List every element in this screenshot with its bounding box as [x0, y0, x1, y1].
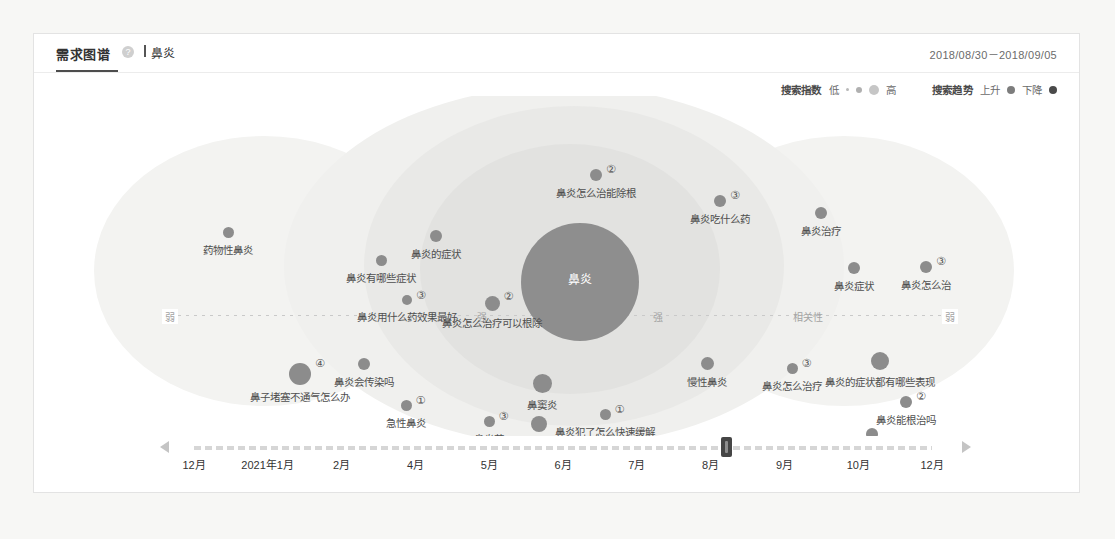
graph-node-rank: ① [416, 394, 426, 407]
timeline-tick: 7月 [628, 456, 645, 472]
triangle-left-icon[interactable] [160, 441, 169, 453]
timeline-tick: 2021年1月 [241, 456, 294, 472]
legend-trend-up-label: 上升 [980, 82, 1000, 97]
graph-node[interactable] [531, 416, 547, 432]
graph-node-label[interactable]: 鼻窦炎 [527, 397, 557, 412]
legend-index-title: 搜索指数 [781, 82, 822, 97]
graph-node-label[interactable]: 鼻炎吃什么药 [690, 211, 750, 226]
graph-node[interactable] [714, 195, 726, 207]
timeline-track[interactable] [194, 446, 932, 450]
graph-node-label[interactable]: 鼻炎的症状 [411, 246, 461, 261]
legend-dot-medium-icon [856, 87, 862, 93]
graph-node-rank: ② [916, 390, 926, 403]
keyword-label: 鼻炎 [151, 44, 175, 61]
graph-node-label[interactable]: 鼻炎怎么治疗 [762, 378, 822, 393]
graph-node-label[interactable]: 鼻炎有哪些症状 [346, 270, 416, 285]
graph-node-label[interactable]: 鼻炎怎么治 [901, 277, 951, 292]
graph-node-rank: ④ [315, 357, 325, 370]
timeline-tick: 2月 [333, 456, 350, 472]
graph-node-rank: ③ [499, 410, 509, 423]
graph-node[interactable] [600, 409, 611, 420]
graph-node[interactable] [815, 207, 827, 219]
timeline[interactable]: 12月2021年1月2月4月5月6月7月8月9月10月12月 [34, 436, 1081, 476]
graph-node[interactable] [402, 295, 412, 305]
graph-node[interactable] [787, 363, 798, 374]
graph-node-label[interactable]: 鼻炎怎么治疗可以根除 [442, 315, 542, 330]
timeline-tick: 12月 [183, 456, 206, 472]
graph-node-label[interactable]: 药物性鼻炎 [203, 242, 253, 257]
question-mark-icon[interactable]: ? [122, 46, 134, 58]
header-divider [34, 72, 1079, 73]
timeline-tick: 9月 [776, 456, 793, 472]
graph-node[interactable] [533, 374, 552, 393]
graph-node[interactable] [484, 416, 495, 427]
legend-trend-up-icon [1007, 86, 1015, 94]
graph-node[interactable] [485, 296, 500, 311]
keyword-divider [144, 45, 146, 57]
axis-label-strong-right: 强 [650, 309, 666, 324]
legend-dot-large-icon [869, 85, 879, 95]
legend-index-low: 低 [829, 82, 839, 97]
graph-node-label[interactable]: 鼻炎怎么治能除根 [556, 185, 636, 200]
legend-index-high: 高 [886, 82, 896, 97]
graph-node-label[interactable]: 鼻子堵塞不通气怎么办 [250, 389, 350, 404]
timeline-tick: 6月 [555, 456, 572, 472]
graph-node[interactable] [848, 262, 860, 274]
timeline-tick: 10月 [847, 456, 870, 472]
card-header: 需求图谱 ? 鼻炎 2018/08/30－2018/09/05 [34, 34, 1079, 74]
legend-trend-down-label: 下降 [1022, 82, 1042, 97]
tab-demand-graph[interactable]: 需求图谱 [56, 44, 110, 63]
timeline-tick: 12月 [921, 456, 944, 472]
center-node-label: 鼻炎 [521, 270, 639, 287]
graph-node-rank: ② [606, 163, 616, 176]
timeline-tick: 4月 [407, 456, 424, 472]
date-range-label: 2018/08/30－2018/09/05 [930, 46, 1057, 62]
graph-node[interactable] [590, 169, 602, 181]
graph-node-label[interactable]: 鼻炎治疗 [801, 223, 841, 238]
graph-node-label[interactable]: 鼻炎犯了怎么快速缓解 [555, 424, 655, 437]
triangle-right-icon[interactable] [962, 441, 971, 453]
graph-node[interactable] [223, 227, 234, 238]
timeline-tick: 8月 [702, 456, 719, 472]
axis-label-weak-left: 弱 [162, 309, 178, 324]
graph-node-label[interactable]: 慢性鼻炎 [687, 374, 727, 389]
graph-node[interactable] [701, 357, 714, 370]
graph-node-label[interactable]: 鼻炎能根治吗 [876, 412, 936, 427]
graph-node[interactable] [871, 352, 889, 370]
timeline-tick: 5月 [481, 456, 498, 472]
legend-trend-title: 搜索趋势 [932, 82, 973, 97]
graph-node-label[interactable]: 鼻炎的症状都有哪些表现 [825, 374, 935, 389]
graph-node[interactable] [920, 261, 932, 273]
legend-dot-small-icon [846, 88, 849, 91]
graph-node[interactable] [289, 363, 311, 385]
graph-node[interactable] [430, 230, 442, 242]
page-root: 需求图谱 ? 鼻炎 2018/08/30－2018/09/05 搜索指数 低 高… [0, 0, 1115, 539]
graph-node-label[interactable]: 鼻炎会传染吗 [334, 374, 394, 389]
demand-graph-card: 需求图谱 ? 鼻炎 2018/08/30－2018/09/05 搜索指数 低 高… [33, 33, 1080, 493]
timeline-handle[interactable] [721, 437, 732, 457]
axis-label-relevance: 相关性 [790, 309, 826, 324]
axis-label-weak-right: 弱 [942, 309, 958, 324]
graph-node[interactable] [900, 396, 912, 408]
legend-trend-down-icon [1049, 86, 1057, 94]
graph-node-rank: ① [615, 403, 625, 416]
graph-node-rank: ③ [416, 289, 426, 302]
graph-node-rank: ③ [730, 189, 740, 202]
graph-node[interactable] [401, 400, 412, 411]
graph-node-rank: ③ [936, 255, 946, 268]
graph-node[interactable] [376, 255, 387, 266]
graph-node-label[interactable]: 急性鼻炎 [386, 415, 426, 430]
demand-graph-canvas[interactable]: 弱 强 强 相关性 弱 鼻炎 药物性鼻炎鼻炎有哪些症状鼻炎的症状③鼻炎用什么药效… [34, 96, 1081, 436]
graph-node-rank: ③ [802, 357, 812, 370]
graph-node-rank: ② [504, 290, 514, 303]
legend: 搜索指数 低 高 搜索趋势 上升 下降 [781, 82, 1057, 97]
graph-node[interactable] [866, 428, 878, 436]
graph-node-label[interactable]: 鼻炎症状 [834, 278, 874, 293]
graph-node[interactable] [358, 358, 370, 370]
